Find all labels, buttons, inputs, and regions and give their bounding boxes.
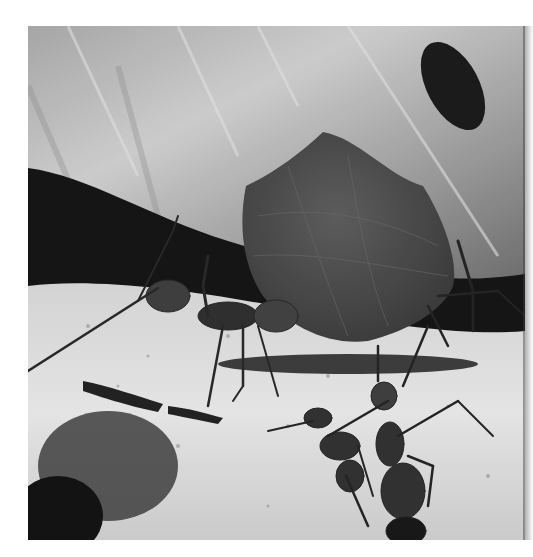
page-edge-shadow — [523, 26, 533, 540]
leafcutter-ants-scene — [28, 26, 525, 540]
photograph — [28, 26, 525, 540]
grain-overlay — [28, 26, 525, 540]
